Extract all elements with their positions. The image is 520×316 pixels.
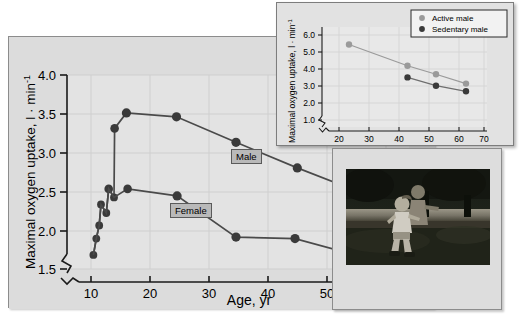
inset-legend: Active male Sedentary male xyxy=(411,10,507,37)
inset-x-tick-label: 60 xyxy=(454,134,464,144)
legend-label-sedentary-male: Sedentary male xyxy=(432,25,489,34)
series-label-female: Female xyxy=(170,203,212,218)
x-tick-label: 20 xyxy=(143,286,157,301)
y-tick-label: 2.5 xyxy=(38,185,56,200)
inset-y-tick-label: 4.0 xyxy=(303,64,315,74)
inset-x-tick-label: 20 xyxy=(334,134,344,144)
legend-marker-active-male xyxy=(419,15,425,21)
main-x-axis-title: Age, yr xyxy=(227,292,272,308)
inset-scatter-chart: 6.0 5.0 4.0 3.0 2.0 1.0 20 30 40 50 60 7… xyxy=(277,3,514,146)
inset-y-tick-label: 6.0 xyxy=(303,30,315,40)
photograph xyxy=(346,169,490,265)
photo-panel xyxy=(332,148,502,310)
y-tick-label: 4.0 xyxy=(38,68,56,83)
inset-y-tick-label: 2.0 xyxy=(303,98,315,108)
x-tick-label: 10 xyxy=(84,286,98,301)
legend-marker-sedentary-male xyxy=(419,26,425,32)
inset-y-tick-label: 5.0 xyxy=(303,47,315,57)
inset-y-axis-title: Maximal oxygen uptake, l · min-1 xyxy=(287,18,297,142)
svg-text:Maximal oxygen uptake, l · min: Maximal oxygen uptake, l · min-1 xyxy=(22,75,38,269)
inset-figure-panel: 6.0 5.0 4.0 3.0 2.0 1.0 20 30 40 50 60 7… xyxy=(276,2,514,146)
inset-x-tick-label: 40 xyxy=(394,134,404,144)
main-y-axis-title-exponent: -1 xyxy=(22,75,32,83)
x-tick-label: 30 xyxy=(202,286,216,301)
inset-x-tick-label: 30 xyxy=(364,134,374,144)
main-y-axis-title-text: Maximal oxygen uptake, l · min xyxy=(23,83,38,269)
y-tick-label: 1.5 xyxy=(38,262,56,277)
inset-y-tick-label: 1.0 xyxy=(303,115,315,125)
inset-x-tick-label: 70 xyxy=(479,134,489,144)
y-tick-label: 3.5 xyxy=(38,107,56,122)
inset-y-tick-label: 3.0 xyxy=(303,81,315,91)
legend-label-active-male: Active male xyxy=(432,14,474,23)
inset-x-tick-label: 50 xyxy=(424,134,434,144)
main-y-axis-title: Maximal oxygen uptake, l · min-1 xyxy=(22,75,38,269)
y-tick-label: 2.0 xyxy=(38,224,56,239)
inset-y-axis-title-text: Maximal oxygen uptake, l · min xyxy=(287,24,297,143)
svg-text:Maximal oxygen uptake, l · min: Maximal oxygen uptake, l · min-1 xyxy=(287,18,297,142)
series-label-male: Male xyxy=(231,149,262,164)
y-tick-label: 3.0 xyxy=(38,146,56,161)
inset-y-axis-title-exponent: -1 xyxy=(287,18,293,24)
